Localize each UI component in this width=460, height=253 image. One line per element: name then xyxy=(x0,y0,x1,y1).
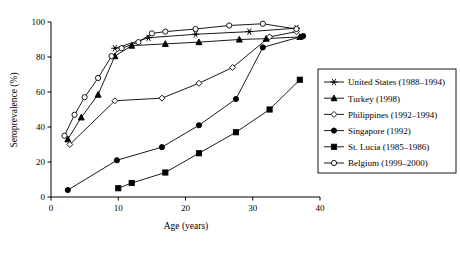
data-point-marker xyxy=(233,130,238,135)
data-point-marker xyxy=(297,77,302,82)
y-tick-label: 80 xyxy=(36,52,46,62)
x-tick-label: 30 xyxy=(248,203,258,213)
data-point-marker xyxy=(196,151,201,156)
y-tick-label: 0 xyxy=(41,192,46,202)
legend-item-label: Turkey (1998) xyxy=(348,94,400,104)
x-axis-label: Age (years) xyxy=(164,221,209,232)
y-tick-label: 100 xyxy=(32,17,46,27)
data-point-marker xyxy=(163,170,168,175)
data-point-marker xyxy=(159,145,164,150)
data-point-marker xyxy=(109,54,114,59)
data-point-marker xyxy=(65,187,70,192)
x-tick-label: 40 xyxy=(316,203,326,213)
x-tick-label: 20 xyxy=(181,203,191,213)
legend-item-label: United States (1988–1994) xyxy=(348,77,445,87)
data-point-marker xyxy=(301,33,306,38)
data-point-marker xyxy=(136,40,141,45)
y-axis-label: Seroprevalence (%) xyxy=(9,72,20,147)
data-point-marker xyxy=(294,26,299,31)
legend-item-label: Singapore (1992) xyxy=(348,126,411,136)
data-point-marker xyxy=(260,45,265,50)
data-point-marker xyxy=(82,95,87,100)
data-point-marker xyxy=(331,144,336,149)
data-point-marker xyxy=(95,75,100,80)
data-point-marker xyxy=(72,112,77,117)
y-tick-label: 20 xyxy=(36,157,46,167)
legend-item-label: Philippines (1992–1994) xyxy=(348,110,437,120)
data-point-marker xyxy=(116,186,121,191)
data-point-marker xyxy=(196,123,201,128)
data-point-marker xyxy=(227,23,232,28)
y-tick-label: 40 xyxy=(36,122,46,132)
data-point-marker xyxy=(119,46,124,51)
legend-item-label: Belgium (1999–2000) xyxy=(348,158,428,168)
x-tick-label: 0 xyxy=(49,203,54,213)
data-point-marker xyxy=(149,31,154,36)
legend-item-label: St. Lucia (1985–1986) xyxy=(348,142,429,152)
data-point-marker xyxy=(62,133,67,138)
y-tick-label: 60 xyxy=(36,87,46,97)
data-point-marker xyxy=(114,158,119,163)
data-point-marker xyxy=(260,21,265,26)
data-point-marker xyxy=(331,160,336,165)
data-point-marker xyxy=(163,29,168,34)
data-point-marker xyxy=(193,26,198,31)
x-tick-label: 10 xyxy=(114,203,124,213)
chart-legend: United States (1988–1994)Turkey (1998)Ph… xyxy=(318,69,456,173)
data-point-marker xyxy=(233,96,238,101)
seroprevalence-by-age-chart: 020406080100 010203040 Seroprevalence (%… xyxy=(0,0,460,253)
data-point-marker xyxy=(331,128,336,133)
data-point-marker xyxy=(129,180,134,185)
data-point-marker xyxy=(267,107,272,112)
